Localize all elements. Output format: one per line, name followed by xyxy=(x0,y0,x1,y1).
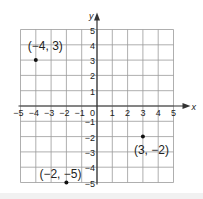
point-label: (−4, 3) xyxy=(28,39,63,53)
x-tick-label: 1 xyxy=(110,108,115,118)
y-tick-label: −1 xyxy=(85,117,95,127)
coordinate-plane: xy −5−4−3−2−11234554321−1−2−3−4−50 (−4, … xyxy=(0,0,203,199)
y-axis-arrow-icon xyxy=(94,13,100,21)
footer-strip xyxy=(0,193,203,199)
y-tick-label: −4 xyxy=(85,163,95,173)
x-tick-label: −4 xyxy=(29,108,39,118)
y-tick-label: −5 xyxy=(85,179,95,189)
y-tick-label: 3 xyxy=(90,56,95,66)
origin-label: 0 xyxy=(90,108,95,118)
y-tick-label: 4 xyxy=(90,41,95,51)
y-tick-label: −3 xyxy=(85,148,95,158)
point-label: (3, −2) xyxy=(134,143,169,157)
x-tick-label: 5 xyxy=(171,108,176,118)
y-tick-label: 5 xyxy=(90,26,95,36)
x-axis-arrow-icon xyxy=(183,103,191,109)
x-tick-label: 2 xyxy=(125,108,130,118)
x-axis-label: x xyxy=(191,102,197,112)
point-marker xyxy=(64,181,68,185)
x-tick-label: −5 xyxy=(13,108,23,118)
axes: xy xyxy=(19,11,197,185)
y-tick-label: 2 xyxy=(90,71,95,81)
y-tick-label: −2 xyxy=(85,133,95,143)
point-label: (−2, −5) xyxy=(39,167,81,181)
point-marker xyxy=(34,58,38,62)
x-tick-label: −1 xyxy=(75,108,85,118)
x-tick-label: 3 xyxy=(140,108,145,118)
x-tick-label: −3 xyxy=(44,108,54,118)
y-axis-label: y xyxy=(88,11,94,21)
point-marker xyxy=(141,135,145,139)
y-tick-label: 1 xyxy=(90,87,95,97)
x-tick-label: 4 xyxy=(156,108,161,118)
x-tick-label: −2 xyxy=(59,108,69,118)
